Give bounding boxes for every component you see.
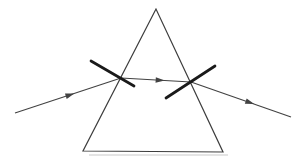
refracted-ray-arrowhead xyxy=(245,99,254,105)
incident-ray-arrowhead xyxy=(65,93,74,99)
refracted-ray xyxy=(191,82,291,117)
prism-refraction-diagram xyxy=(0,0,298,160)
prism-outline xyxy=(83,9,223,152)
prism-diagram-stage xyxy=(0,0,298,160)
internal-ray-arrowhead xyxy=(156,77,165,83)
normal-at-exit-face xyxy=(166,66,215,98)
